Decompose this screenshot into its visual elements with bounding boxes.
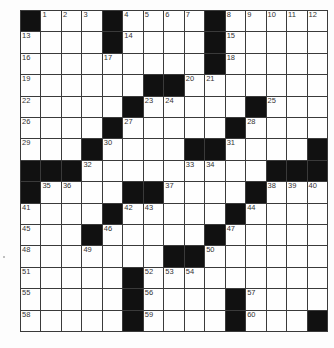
crossword-cell[interactable]: 3 xyxy=(82,11,101,31)
crossword-cell[interactable] xyxy=(287,75,306,95)
crossword-cell[interactable] xyxy=(246,32,265,52)
crossword-cell[interactable] xyxy=(226,97,245,117)
crossword-cell[interactable] xyxy=(164,54,183,74)
crossword-cell[interactable] xyxy=(144,118,163,138)
crossword-cell[interactable]: 5 xyxy=(144,11,163,31)
crossword-cell[interactable]: 49 xyxy=(82,246,101,266)
crossword-cell[interactable] xyxy=(123,54,142,74)
crossword-cell[interactable]: 43 xyxy=(144,204,163,224)
crossword-cell[interactable] xyxy=(82,182,101,202)
crossword-cell[interactable] xyxy=(82,268,101,288)
crossword-cell[interactable]: 54 xyxy=(185,268,204,288)
crossword-cell[interactable] xyxy=(267,54,286,74)
crossword-cell[interactable]: 30 xyxy=(103,139,122,159)
crossword-cell[interactable] xyxy=(226,246,245,266)
crossword-cell[interactable] xyxy=(103,311,122,331)
crossword-cell[interactable] xyxy=(267,311,286,331)
crossword-cell[interactable] xyxy=(41,289,60,309)
crossword-cell[interactable] xyxy=(267,225,286,245)
crossword-cell[interactable]: 21 xyxy=(205,75,224,95)
crossword-cell[interactable] xyxy=(308,118,327,138)
crossword-cell[interactable] xyxy=(103,289,122,309)
crossword-cell[interactable]: 23 xyxy=(144,97,163,117)
crossword-cell[interactable] xyxy=(41,32,60,52)
crossword-cell[interactable] xyxy=(62,118,81,138)
crossword-cell[interactable] xyxy=(41,54,60,74)
crossword-cell[interactable] xyxy=(205,97,224,117)
crossword-cell[interactable]: 12 xyxy=(308,11,327,31)
crossword-cell[interactable] xyxy=(82,289,101,309)
crossword-cell[interactable] xyxy=(144,246,163,266)
crossword-cell[interactable] xyxy=(287,268,306,288)
crossword-cell[interactable] xyxy=(185,97,204,117)
crossword-cell[interactable]: 18 xyxy=(226,54,245,74)
crossword-cell[interactable] xyxy=(41,118,60,138)
crossword-cell[interactable] xyxy=(41,268,60,288)
crossword-cell[interactable] xyxy=(82,97,101,117)
crossword-cell[interactable] xyxy=(308,75,327,95)
crossword-cell[interactable]: 45 xyxy=(21,225,40,245)
crossword-cell[interactable] xyxy=(267,32,286,52)
crossword-cell[interactable]: 35 xyxy=(41,182,60,202)
crossword-cell[interactable] xyxy=(267,204,286,224)
crossword-cell[interactable] xyxy=(267,268,286,288)
crossword-cell[interactable] xyxy=(267,246,286,266)
crossword-cell[interactable]: 59 xyxy=(144,311,163,331)
crossword-cell[interactable]: 27 xyxy=(123,118,142,138)
crossword-cell[interactable] xyxy=(62,311,81,331)
crossword-cell[interactable]: 38 xyxy=(267,182,286,202)
crossword-cell[interactable]: 40 xyxy=(308,182,327,202)
crossword-cell[interactable] xyxy=(246,161,265,181)
crossword-cell[interactable] xyxy=(287,246,306,266)
crossword-cell[interactable] xyxy=(82,204,101,224)
crossword-cell[interactable] xyxy=(123,246,142,266)
crossword-cell[interactable]: 52 xyxy=(144,268,163,288)
crossword-cell[interactable]: 2 xyxy=(62,11,81,31)
crossword-cell[interactable]: 22 xyxy=(21,97,40,117)
crossword-cell[interactable] xyxy=(82,311,101,331)
crossword-cell[interactable] xyxy=(205,118,224,138)
crossword-cell[interactable] xyxy=(185,182,204,202)
crossword-cell[interactable] xyxy=(41,139,60,159)
crossword-cell[interactable]: 19 xyxy=(21,75,40,95)
crossword-cell[interactable]: 36 xyxy=(62,182,81,202)
crossword-cell[interactable] xyxy=(308,54,327,74)
crossword-cell[interactable] xyxy=(144,161,163,181)
crossword-cell[interactable] xyxy=(164,161,183,181)
crossword-cell[interactable] xyxy=(287,204,306,224)
crossword-cell[interactable]: 10 xyxy=(267,11,286,31)
crossword-cell[interactable]: 24 xyxy=(164,97,183,117)
crossword-cell[interactable] xyxy=(82,118,101,138)
crossword-cell[interactable] xyxy=(287,32,306,52)
crossword-cell[interactable]: 15 xyxy=(226,32,245,52)
crossword-cell[interactable]: 1 xyxy=(41,11,60,31)
crossword-cell[interactable] xyxy=(205,182,224,202)
crossword-cell[interactable] xyxy=(62,97,81,117)
crossword-cell[interactable]: 26 xyxy=(21,118,40,138)
crossword-cell[interactable] xyxy=(82,32,101,52)
crossword-cell[interactable]: 41 xyxy=(21,204,40,224)
crossword-cell[interactable] xyxy=(62,32,81,52)
crossword-cell[interactable]: 50 xyxy=(205,246,224,266)
crossword-cell[interactable]: 4 xyxy=(123,11,142,31)
crossword-cell[interactable] xyxy=(62,204,81,224)
crossword-cell[interactable]: 11 xyxy=(287,11,306,31)
crossword-cell[interactable] xyxy=(62,246,81,266)
crossword-cell[interactable] xyxy=(103,268,122,288)
crossword-cell[interactable]: 37 xyxy=(164,182,183,202)
crossword-cell[interactable] xyxy=(185,225,204,245)
crossword-cell[interactable]: 31 xyxy=(226,139,245,159)
crossword-cell[interactable]: 28 xyxy=(246,118,265,138)
crossword-cell[interactable] xyxy=(123,75,142,95)
crossword-cell[interactable] xyxy=(287,139,306,159)
crossword-cell[interactable] xyxy=(144,32,163,52)
crossword-cell[interactable]: 20 xyxy=(185,75,204,95)
crossword-cell[interactable] xyxy=(185,118,204,138)
crossword-cell[interactable] xyxy=(103,97,122,117)
crossword-cell[interactable] xyxy=(103,75,122,95)
crossword-cell[interactable] xyxy=(62,75,81,95)
crossword-cell[interactable] xyxy=(62,268,81,288)
crossword-cell[interactable] xyxy=(205,268,224,288)
crossword-cell[interactable] xyxy=(267,139,286,159)
crossword-cell[interactable] xyxy=(246,225,265,245)
